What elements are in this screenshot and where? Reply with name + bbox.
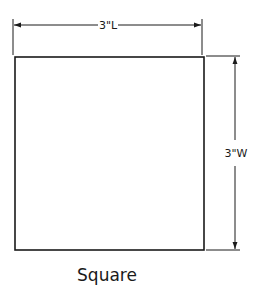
square-shape [15,57,204,250]
square-diagram: 3"L 3"W Square [0,0,258,295]
shape-caption: Square [77,265,137,285]
length-label: 3"L [99,19,118,32]
width-label: 3"W [225,147,248,160]
